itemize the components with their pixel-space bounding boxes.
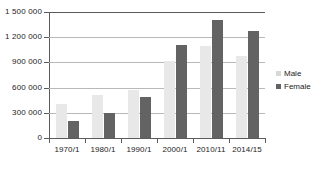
y-tick-label: 600 000 <box>12 84 42 92</box>
y-tick-label: 1 500 000 <box>5 8 42 16</box>
y-tick-label: 0 <box>37 134 42 142</box>
plot-top-border <box>49 12 265 13</box>
x-tick-label: 2010/11 <box>193 146 229 154</box>
x-tick-label: 1970/1 <box>49 146 85 154</box>
legend-item-female: Female <box>276 81 322 92</box>
gridline <box>49 88 265 89</box>
bar-male-2010-11 <box>200 46 211 138</box>
legend-label: Female <box>284 83 311 91</box>
x-tick-mark <box>193 139 194 143</box>
bar-male-1970-1 <box>56 104 67 138</box>
bar-female-2014-15 <box>248 31 259 138</box>
gridline <box>49 62 265 63</box>
y-tick-label: 300 000 <box>12 109 42 117</box>
bar-female-2010-11 <box>212 20 223 138</box>
gridline <box>49 113 265 114</box>
y-tick-label: 1 200 000 <box>5 33 42 41</box>
bar-male-1980-1 <box>92 95 103 138</box>
bar-female-2000-1 <box>176 45 187 138</box>
x-tick-mark <box>229 139 230 143</box>
plot-area <box>49 12 265 138</box>
gridline <box>49 37 265 38</box>
x-tick-mark <box>85 139 86 143</box>
y-tick-label: 900 000 <box>12 58 42 66</box>
legend-label: Male <box>284 70 301 78</box>
x-tick-mark <box>121 139 122 143</box>
chart-legend: MaleFemale <box>276 68 322 94</box>
bar-female-1980-1 <box>104 113 115 138</box>
x-tick-mark <box>49 139 50 143</box>
x-tick-label: 1990/1 <box>121 146 157 154</box>
bar-female-1970-1 <box>68 121 79 138</box>
legend-swatch-male-icon <box>276 71 281 76</box>
x-tick-mark <box>265 139 266 143</box>
bar-chart: 0300 000600 000900 0001 200 0001 500 000… <box>0 0 322 170</box>
legend-swatch-female-icon <box>276 84 281 89</box>
x-tick-label: 1980/1 <box>85 146 121 154</box>
bar-male-2014-15 <box>236 56 247 138</box>
x-tick-mark <box>157 139 158 143</box>
legend-item-male: Male <box>276 68 322 79</box>
bar-female-1990-1 <box>140 97 151 138</box>
bar-male-2000-1 <box>164 61 175 138</box>
y-axis-labels: 0300 000600 000900 0001 200 0001 500 000 <box>0 0 42 170</box>
x-tick-label: 2014/15 <box>229 146 265 154</box>
bar-male-1990-1 <box>128 90 139 138</box>
x-tick-label: 2000/1 <box>157 146 193 154</box>
